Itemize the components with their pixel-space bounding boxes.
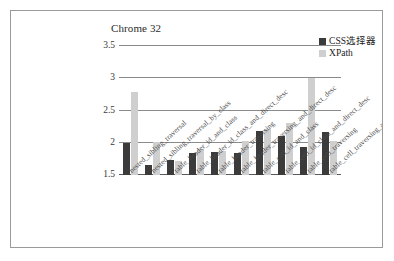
bar-xpath <box>264 129 271 175</box>
bar-group <box>163 46 185 175</box>
y-axis-tick-1-5: 1.5 <box>103 169 115 179</box>
bar-group <box>141 46 163 175</box>
bar-group <box>252 46 274 175</box>
bar-css-selector <box>123 143 130 175</box>
bar-group <box>297 46 319 175</box>
bar-xpath <box>308 78 315 175</box>
bar-css-selector <box>234 153 241 175</box>
bar-xpath <box>242 141 249 175</box>
bar-xpath <box>175 161 182 175</box>
bar-css-selector <box>256 131 263 176</box>
bar-css-selector <box>167 160 174 175</box>
bar-group <box>274 46 296 175</box>
bar-group <box>119 46 141 175</box>
y-axis-tick-3: 3 <box>110 72 115 82</box>
chart-container: Chrome 32 CSS选择器 XPath 1.522.533.5 neste… <box>10 10 383 248</box>
bar-xpath <box>197 149 204 175</box>
plot-area: 1.522.533.5 <box>119 46 341 175</box>
bar-group <box>319 46 341 175</box>
bar-css-selector <box>278 136 285 175</box>
legend-swatch-css-selector <box>319 38 326 45</box>
bar-xpath <box>286 123 293 175</box>
bar-css-selector <box>189 153 196 175</box>
bar-css-selector <box>300 147 307 175</box>
bar-css-selector <box>145 165 152 175</box>
y-axis-tick-2: 2 <box>110 137 115 147</box>
bar-xpath <box>219 151 226 175</box>
y-axis-tick-2-5: 2.5 <box>103 105 115 115</box>
bar-xpath <box>153 142 160 175</box>
bar-group <box>186 46 208 175</box>
y-axis-tick-3-5: 3.5 <box>103 40 115 50</box>
chart-title: Chrome 32 <box>111 22 161 34</box>
bar-css-selector <box>322 132 329 175</box>
bar-css-selector <box>211 152 218 175</box>
bar-series-container <box>119 46 341 175</box>
bar-group <box>230 46 252 175</box>
bar-group <box>208 46 230 175</box>
bar-xpath <box>330 141 337 175</box>
bar-xpath <box>131 92 138 175</box>
